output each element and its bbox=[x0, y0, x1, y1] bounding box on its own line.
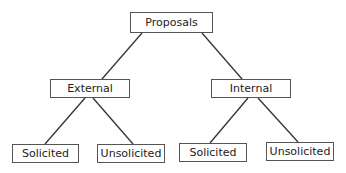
edge-internal-unsolicited bbox=[258, 98, 298, 142]
node-external-solicited: Solicited bbox=[12, 144, 79, 163]
node-external-unsolicited: Unsolicited bbox=[97, 144, 165, 163]
node-internal: Internal bbox=[211, 79, 291, 98]
node-internal-unsolicited: Unsolicited bbox=[266, 142, 334, 161]
node-external: External bbox=[50, 79, 130, 98]
node-proposals: Proposals bbox=[130, 12, 213, 33]
edge-proposals-external bbox=[102, 33, 142, 79]
edge-internal-solicited bbox=[210, 98, 248, 143]
edge-external-solicited bbox=[45, 98, 85, 144]
node-internal-solicited: Solicited bbox=[179, 143, 247, 162]
edge-external-unsolicited bbox=[93, 98, 133, 144]
edge-proposals-internal bbox=[202, 33, 242, 79]
